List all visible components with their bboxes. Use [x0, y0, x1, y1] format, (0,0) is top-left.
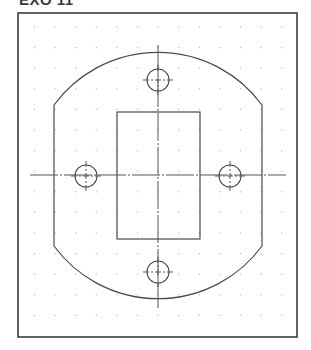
grid-dot	[75, 26, 76, 27]
grid-dot	[137, 253, 138, 254]
grid-dot	[55, 68, 56, 69]
grid-dot	[137, 294, 138, 295]
grid-dot	[137, 191, 138, 192]
grid-dot	[96, 150, 97, 151]
grid-dot	[240, 109, 241, 110]
grid-dot	[137, 88, 138, 89]
grid-dot	[75, 232, 76, 233]
grid-dot	[281, 274, 282, 275]
grid-dot	[55, 294, 56, 295]
grid-dot	[137, 109, 138, 110]
grid-dot	[116, 109, 117, 110]
grid-dot	[240, 232, 241, 233]
grid-dot	[158, 315, 159, 316]
grid-dot	[55, 88, 56, 89]
grid-dot	[96, 315, 97, 316]
grid-dot	[178, 109, 179, 110]
grid-dot	[55, 171, 56, 172]
grid-dot	[178, 191, 179, 192]
grid-dot	[96, 129, 97, 130]
grid-dot	[75, 109, 76, 110]
grid-dot	[199, 294, 200, 295]
grid-dot	[116, 68, 117, 69]
grid-dot	[281, 109, 282, 110]
grid-dot	[199, 88, 200, 89]
grid-dot	[137, 171, 138, 172]
grid-dot	[34, 26, 35, 27]
grid-dot	[281, 47, 282, 48]
grid-dot	[178, 274, 179, 275]
grid-dot	[240, 253, 241, 254]
grid-dot	[281, 253, 282, 254]
grid-dot	[261, 274, 262, 275]
grid-dot	[178, 26, 179, 27]
grid-dot	[34, 315, 35, 316]
grid-dot	[137, 26, 138, 27]
grid-dot	[116, 47, 117, 48]
grid-dot	[116, 294, 117, 295]
grid-dot	[261, 68, 262, 69]
grid-dot	[116, 253, 117, 254]
grid-dot	[281, 88, 282, 89]
grid-dot	[34, 253, 35, 254]
grid-dot	[178, 68, 179, 69]
grid-dot	[96, 274, 97, 275]
grid-dot	[281, 294, 282, 295]
grid-dot	[75, 150, 76, 151]
grid-dot	[261, 315, 262, 316]
grid-dot	[116, 26, 117, 27]
grid-dot	[116, 88, 117, 89]
grid-dot	[34, 171, 35, 172]
grid-dot	[219, 129, 220, 130]
grid-dot	[240, 150, 241, 151]
hole-top	[143, 65, 173, 95]
grid-dot	[178, 88, 179, 89]
grid-dot	[219, 253, 220, 254]
hole-right	[215, 161, 245, 191]
grid-dot	[158, 26, 159, 27]
grid-dot	[55, 129, 56, 130]
grid-dot	[75, 68, 76, 69]
grid-dot	[219, 315, 220, 316]
grid-dot	[34, 191, 35, 192]
grid-dot	[34, 47, 35, 48]
technical-drawing	[0, 0, 311, 350]
grid-dot	[55, 26, 56, 27]
grid-dot	[199, 274, 200, 275]
grid-dot	[34, 150, 35, 151]
grid-dot	[34, 294, 35, 295]
hole-bottom	[143, 257, 173, 287]
grid-dot	[34, 129, 35, 130]
grid-dot	[219, 232, 220, 233]
grid-dot	[199, 109, 200, 110]
grid-dot	[178, 212, 179, 213]
grid-dot	[116, 315, 117, 316]
grid-dot	[178, 294, 179, 295]
grid-dot	[219, 109, 220, 110]
grid-dot	[34, 109, 35, 110]
grid-dot	[75, 191, 76, 192]
grid-dot	[116, 274, 117, 275]
grid-dot	[219, 26, 220, 27]
grid-dot	[240, 191, 241, 192]
grid-dot	[96, 294, 97, 295]
grid-dot	[75, 294, 76, 295]
grid-dot	[281, 26, 282, 27]
grid-dot	[199, 47, 200, 48]
grid-dot	[137, 274, 138, 275]
grid-dot	[55, 212, 56, 213]
grid-dot	[34, 68, 35, 69]
grid-dot	[281, 150, 282, 151]
grid-dot	[55, 150, 56, 151]
grid-dot	[199, 253, 200, 254]
grid-dot	[178, 47, 179, 48]
grid-dot	[96, 88, 97, 89]
grid-dot	[178, 171, 179, 172]
grid-dot	[281, 68, 282, 69]
grid-dot	[178, 129, 179, 130]
grid-dot	[240, 129, 241, 130]
grid-dot	[178, 315, 179, 316]
grid-dot	[137, 150, 138, 151]
grid-dot	[261, 253, 262, 254]
grid-dot	[240, 68, 241, 69]
